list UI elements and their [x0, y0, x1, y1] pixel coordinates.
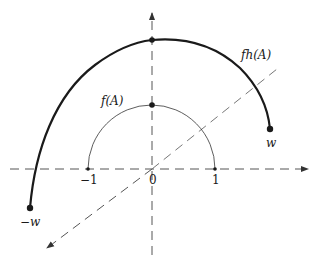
point-one: [213, 167, 217, 171]
label-fh-a: fh(A): [241, 49, 271, 61]
point-neg-one: [86, 167, 90, 171]
diagonal-axis-upper: [152, 69, 277, 169]
diagonal-axis-lower: [47, 169, 152, 248]
label-w: w: [266, 137, 276, 149]
label-neg-one: −1: [80, 174, 98, 186]
label-zero: 0: [149, 174, 157, 186]
point-fh-top: [149, 37, 155, 43]
diagram-canvas: [0, 0, 315, 263]
point-w: [267, 126, 273, 132]
point-f-top: [149, 102, 155, 108]
point-neg-w: [27, 205, 33, 211]
label-neg-w: −w: [20, 216, 40, 228]
label-one: 1: [212, 174, 220, 186]
label-f-a: f(A): [101, 95, 123, 107]
